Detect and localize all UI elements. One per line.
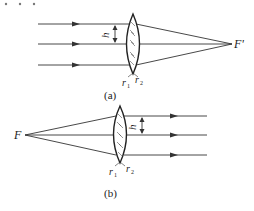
height-label: h bbox=[99, 32, 111, 38]
r1-subscript: 1 bbox=[127, 83, 130, 89]
radius-labels: r 1 r 2 bbox=[109, 162, 134, 178]
converging-rays bbox=[136, 24, 232, 65]
diagram-b: h r 1 r 2 F (b) bbox=[13, 106, 207, 200]
focal-point-label: F bbox=[13, 128, 22, 142]
caption-b: (b) bbox=[104, 187, 117, 200]
height-dimension: h bbox=[99, 25, 118, 43]
diagram-a: h r 1 r 2 F' (a) bbox=[38, 14, 244, 102]
height-label: h bbox=[126, 124, 138, 130]
r1-label: r bbox=[109, 166, 113, 177]
r2-subscript: 2 bbox=[131, 169, 134, 175]
header-dots bbox=[5, 3, 35, 5]
r2-subscript: 2 bbox=[140, 80, 143, 86]
incoming-rays bbox=[38, 24, 130, 65]
caption-a: (a) bbox=[104, 89, 117, 102]
height-dimension: h bbox=[126, 117, 145, 134]
r2-label: r bbox=[126, 163, 130, 174]
diverging-rays bbox=[25, 116, 116, 155]
r1-subscript: 1 bbox=[114, 172, 117, 178]
ray-arrow-icon bbox=[72, 22, 80, 68]
focal-point-label: F' bbox=[233, 37, 244, 51]
radius-labels: r 1 r 2 bbox=[122, 73, 143, 89]
optics-diagram: h r 1 r 2 F' (a) bbox=[0, 0, 254, 211]
r2-label: r bbox=[135, 74, 139, 85]
ray-arrow-icon bbox=[170, 114, 178, 158]
r1-label: r bbox=[122, 77, 126, 88]
outgoing-rays bbox=[124, 116, 207, 155]
